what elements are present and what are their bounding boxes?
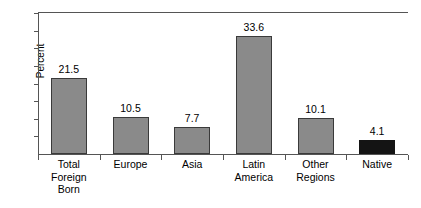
bar-total-foreign-born[interactable]: 21.5 bbox=[51, 78, 87, 154]
bar-rect bbox=[359, 140, 395, 154]
bar-latin-america[interactable]: 33.6 bbox=[236, 36, 272, 154]
bar-rect bbox=[51, 78, 87, 154]
y-axis-tick bbox=[34, 101, 39, 102]
y-axis-tick bbox=[34, 84, 39, 85]
bar-europe[interactable]: 10.5 bbox=[113, 117, 149, 154]
bar-native[interactable]: 4.1 bbox=[359, 140, 395, 154]
y-axis-tick bbox=[34, 31, 39, 32]
category-label-line: Born bbox=[26, 183, 112, 196]
y-axis-tick bbox=[34, 119, 39, 120]
bar-rect bbox=[236, 36, 272, 154]
bar-rect bbox=[298, 118, 334, 154]
category-label-line: Foreign bbox=[26, 171, 112, 184]
bar-value-label: 21.5 bbox=[59, 63, 79, 75]
bar-other-regions[interactable]: 10.1 bbox=[298, 118, 334, 154]
y-axis-tick bbox=[34, 66, 39, 67]
bar-value-label: 33.6 bbox=[244, 21, 264, 33]
category-label-native: Native bbox=[334, 158, 420, 171]
bar-asia[interactable]: 7.7 bbox=[174, 127, 210, 154]
y-axis-tick bbox=[34, 48, 39, 49]
category-label-line: Native bbox=[334, 158, 420, 171]
y-axis-tick bbox=[34, 13, 39, 14]
bar-value-label: 7.7 bbox=[185, 112, 200, 124]
bar-rect bbox=[113, 117, 149, 154]
plot-area: 21.510.57.733.610.14.1 bbox=[38, 12, 408, 155]
bar-chart: Percent 21.510.57.733.610.14.1 TotalFore… bbox=[0, 0, 421, 208]
category-label-line: Regions bbox=[273, 171, 359, 184]
bar-value-label: 10.5 bbox=[120, 102, 140, 114]
bar-rect bbox=[174, 127, 210, 154]
bar-value-label: 4.1 bbox=[370, 125, 385, 137]
y-axis-tick bbox=[34, 136, 39, 137]
bar-value-label: 10.1 bbox=[305, 103, 325, 115]
plot-frame-top-line bbox=[38, 12, 408, 13]
